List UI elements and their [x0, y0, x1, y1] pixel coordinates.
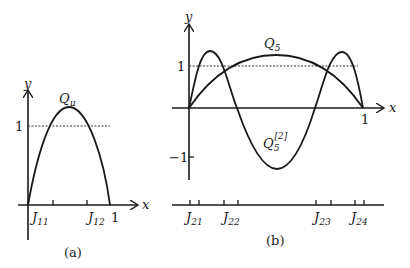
panel-a-curve-q-mu — [28, 107, 110, 205]
panel-a-y-label: y — [23, 76, 32, 91]
panel-a-x-end-1: 1 — [111, 210, 119, 225]
panel-a-interval-j12: J12 — [85, 210, 105, 227]
panel-b: y x 1 −1 1 Q5 Q5[2] J21 J22 J23 J24 (b) — [169, 9, 397, 248]
panel-b-curve-label-q5-2: Q5[2] — [263, 131, 288, 153]
panel-b-caption: (b) — [266, 233, 284, 248]
panel-b-interval-j23: J23 — [311, 210, 331, 227]
panel-b-y-tick-minus-1: −1 — [169, 150, 188, 165]
panel-b-x-label: x — [389, 100, 397, 115]
panel-a-caption: (a) — [64, 245, 82, 260]
panel-a-interval-j11: J11 — [29, 210, 49, 227]
panel-b-y-tick-1: 1 — [177, 59, 185, 74]
panel-b-interval-j21: J21 — [183, 210, 203, 227]
panel-b-curve-label-q5: Q5 — [264, 36, 281, 53]
panel-b-curve-q5 — [189, 55, 363, 108]
panel-a-y-tick-1: 1 — [15, 119, 23, 134]
panel-b-y-label: y — [184, 9, 193, 24]
panel-b-interval-j22: J22 — [220, 210, 240, 227]
panel-a-curve-label: Qμ — [59, 91, 76, 108]
panel-b-interval-j24: J24 — [348, 210, 368, 227]
panel-a: y x 1 1 Qμ J11 J12 (a) — [15, 76, 150, 260]
diagram-canvas: y x 1 1 Qμ J11 J12 (a) y x 1 — [0, 0, 410, 268]
panel-b-x-end-1: 1 — [361, 112, 369, 127]
panel-a-x-label: x — [142, 197, 150, 212]
